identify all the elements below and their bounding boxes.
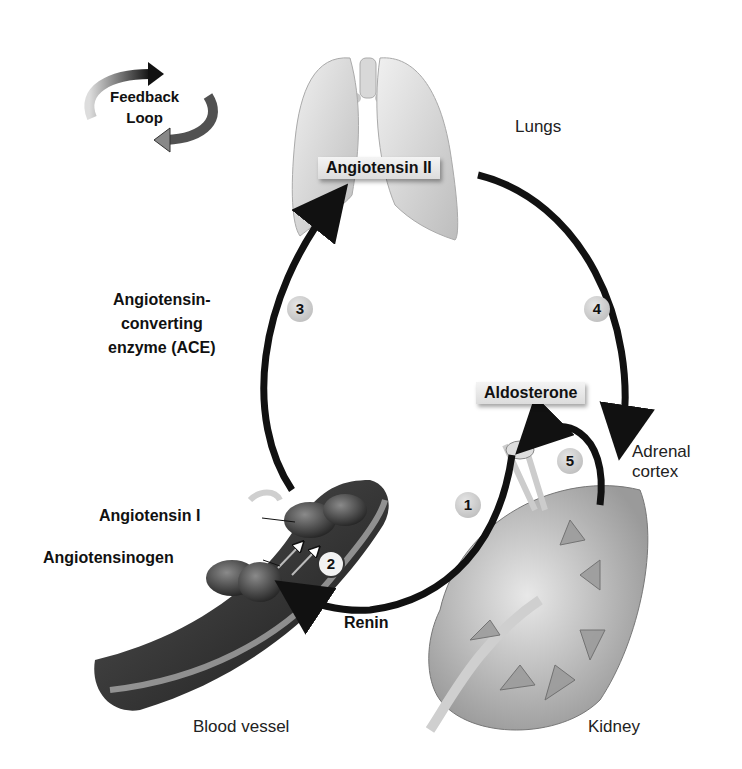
ace-label-line1: Angiotensin- [108, 288, 216, 312]
raas-diagram: Feedback Loop Lungs Angiotensin II Aldos… [0, 0, 742, 769]
step-marker-3: 3 [287, 296, 313, 322]
ace-label: Angiotensin- converting enzyme (ACE) [108, 288, 216, 360]
kidney-label: Kidney [588, 717, 640, 737]
aldosterone-label: Aldosterone [476, 382, 585, 404]
step-marker-2: 2 [317, 550, 345, 578]
feedback-label-line2: Loop [110, 107, 179, 128]
renin-label: Renin [344, 614, 388, 632]
adrenal-label-line1: Adrenal [632, 442, 691, 462]
adrenal-label-line2: cortex [632, 462, 691, 482]
blood-vessel-label: Blood vessel [193, 717, 289, 737]
angiotensin-i-label: Angiotensin I [99, 507, 200, 525]
adrenal-cortex-label: Adrenal cortex [632, 442, 691, 482]
feedback-label-line1: Feedback [110, 86, 179, 107]
step-marker-1: 1 [455, 492, 481, 518]
lungs-label: Lungs [515, 117, 561, 137]
ace-label-line3: enzyme (ACE) [108, 336, 216, 360]
arrow-step-3 [264, 200, 335, 490]
step-marker-4: 4 [584, 296, 610, 322]
kidney-illustration [429, 441, 648, 730]
step-marker-5: 5 [557, 448, 583, 474]
feedback-loop-label: Feedback Loop [110, 86, 179, 128]
angiotensinogen-label: Angiotensinogen [43, 549, 174, 567]
ace-label-line2: converting [108, 312, 216, 336]
lungs-illustration [292, 58, 457, 240]
angiotensin-ii-label: Angiotensin II [318, 157, 440, 179]
